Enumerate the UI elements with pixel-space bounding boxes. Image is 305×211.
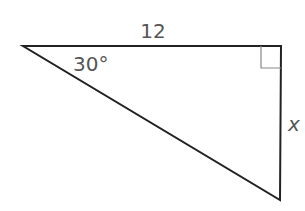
angle-label: 30° — [73, 52, 108, 76]
triangle-diagram: 12 30° x — [0, 0, 305, 211]
triangle — [23, 46, 281, 200]
right-side-label: x — [287, 112, 300, 136]
top-side-label: 12 — [140, 19, 165, 43]
right-angle-mark — [261, 46, 281, 68]
